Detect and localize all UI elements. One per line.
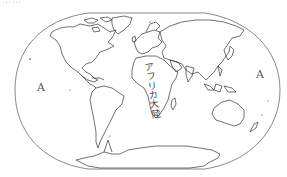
island-dot <box>267 100 268 101</box>
island-dot <box>69 89 70 90</box>
ocean-label-left: A <box>37 81 45 94</box>
island-dot <box>29 58 31 60</box>
island-dot <box>109 135 110 136</box>
ocean-label-right: A <box>256 68 264 81</box>
island-dot <box>261 114 262 115</box>
island-dot <box>149 21 150 22</box>
